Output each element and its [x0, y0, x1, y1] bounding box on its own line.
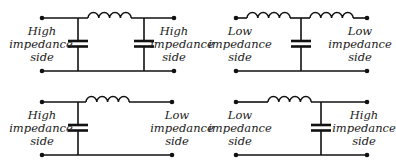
left-label-line1: Low — [227, 108, 253, 122]
right-label-line1: High — [159, 24, 188, 38]
right-label-line2: impedance — [150, 121, 214, 135]
terminal-dot — [172, 69, 177, 74]
terminal-dot — [234, 16, 239, 21]
capacitor-icon — [311, 102, 331, 155]
terminal-dot — [234, 69, 239, 74]
terminal-dot — [234, 153, 239, 158]
right-label-line3: side — [165, 134, 189, 148]
terminal-dot — [40, 69, 45, 74]
terminal-dot — [365, 69, 370, 74]
right-label-line3: side — [352, 134, 376, 148]
right-label-line1: Low — [164, 108, 190, 122]
left-label-line3: side — [228, 134, 252, 148]
terminal-dot — [40, 16, 45, 21]
left-label-line3: side — [30, 134, 54, 148]
terminal-dot — [365, 153, 370, 158]
right-label-line2: impedance — [150, 37, 214, 51]
panel-l-network-high-low: High impedance side Low impedance side — [9, 97, 214, 158]
inductor-icon — [88, 13, 131, 18]
terminal-dot — [172, 16, 177, 21]
left-label-line3: side — [30, 50, 54, 64]
terminal-dot — [365, 16, 370, 21]
terminal-dot — [40, 153, 45, 158]
right-label-line3: side — [162, 50, 186, 64]
filter-networks-diagram: High impedance side High impedance side … — [0, 0, 396, 168]
right-label-line1: Low — [347, 24, 373, 38]
right-label-line2: impedance — [328, 37, 392, 51]
left-label-line1: Low — [227, 24, 253, 38]
terminal-dot — [170, 100, 175, 105]
left-label-line1: High — [27, 108, 56, 122]
terminal-dot — [365, 100, 370, 105]
right-label-line2: impedance — [332, 121, 396, 135]
inductor-icon — [86, 97, 129, 102]
left-label-line2: impedance — [9, 121, 73, 135]
left-label-line3: side — [228, 50, 252, 64]
left-label-line2: impedance — [208, 121, 272, 135]
terminal-dot — [170, 153, 175, 158]
left-label-line2: impedance — [208, 37, 272, 51]
panel-t-network: Low impedance side Low impedance side — [208, 13, 392, 74]
inductor-icon — [247, 13, 290, 18]
right-label-line1: High — [349, 108, 378, 122]
capacitor-icon — [291, 18, 311, 71]
right-label-line3: side — [348, 50, 372, 64]
panel-pi-network: High impedance side High impedance side — [9, 13, 214, 74]
inductor-icon — [310, 13, 353, 18]
terminal-dot — [40, 100, 45, 105]
panel-l-network-low-high: Low impedance side High impedance side — [208, 97, 396, 158]
left-label-line2: impedance — [9, 37, 73, 51]
left-label-line1: High — [27, 24, 56, 38]
terminal-dot — [234, 100, 239, 105]
inductor-icon — [268, 97, 311, 102]
